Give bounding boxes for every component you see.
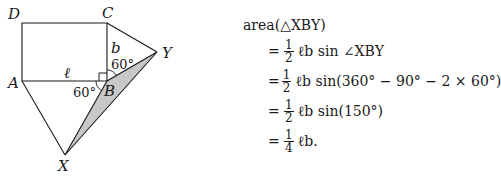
fraction-denominator: 2	[282, 82, 292, 94]
area-derivation: area(△XBY) = 1 2 ℓb sin ∠XBY = 1 2 ℓb si…	[243, 14, 463, 156]
fraction-numerator: 1	[282, 69, 292, 82]
equals-sign: =	[268, 73, 280, 89]
fraction-numerator: 1	[284, 129, 294, 142]
vertex-label-y: Y	[162, 44, 174, 62]
equation-expression: ℓb sin(150°)	[298, 103, 383, 120]
side-label-ab: ℓ	[64, 64, 70, 82]
geometry-figure: D C A B Y X ℓ b 60° 60°	[0, 0, 200, 176]
vertex-label-c: C	[102, 4, 114, 22]
fraction: 1 2	[284, 39, 294, 64]
equation-row-2: = 1 2 ℓb sin(360° − 90° − 2 × 60°)	[243, 66, 463, 96]
angle-label-abx: 60°	[73, 85, 96, 100]
equals-sign: =	[268, 43, 282, 59]
equation-expression: ℓb sin(360° − 90° − 2 × 60°)	[295, 73, 501, 90]
equation-expression: ℓb sin ∠XBY	[298, 43, 384, 60]
fraction-denominator: 2	[284, 112, 294, 124]
fraction-numerator: 1	[284, 39, 294, 52]
fraction-denominator: 2	[284, 52, 294, 64]
equation-row-1: = 1 2 ℓb sin ∠XBY	[243, 36, 463, 66]
equals-sign: =	[268, 103, 282, 119]
right-angle-marker	[99, 73, 107, 81]
angle-label-cby: 60°	[111, 57, 134, 72]
vertex-label-b: B	[103, 82, 115, 100]
fraction-numerator: 1	[284, 99, 294, 112]
fraction-denominator: 4	[284, 142, 294, 154]
angle-arc-abx	[96, 81, 102, 91]
vertex-label-a: A	[6, 74, 19, 92]
fraction: 1 4	[284, 129, 294, 154]
equation-row-4: = 1 4 ℓb.	[243, 126, 463, 156]
vertex-label-x: X	[57, 157, 70, 175]
fraction: 1 2	[282, 69, 292, 94]
segment-ax	[22, 81, 65, 155]
vertex-label-d: D	[7, 5, 20, 23]
equals-sign: =	[268, 133, 282, 149]
equation-expression: ℓb.	[298, 133, 318, 150]
equation-head: area(△XBY)	[243, 14, 463, 36]
equation-row-3: = 1 2 ℓb sin(150°)	[243, 96, 463, 126]
geometry-diagram: D C A B Y X ℓ b 60° 60°	[0, 0, 200, 176]
side-label-bc: b	[111, 39, 121, 57]
fraction: 1 2	[284, 99, 294, 124]
